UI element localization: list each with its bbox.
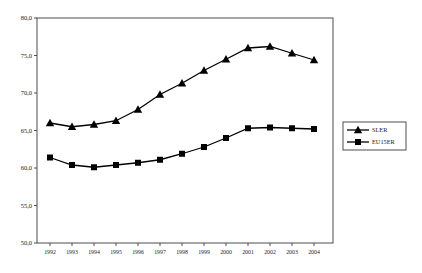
data-point-marker-square xyxy=(179,151,185,157)
data-point-marker-square xyxy=(113,162,119,168)
data-point-marker-square xyxy=(69,162,75,168)
y-axis-tick-label: 65,0 xyxy=(21,127,32,134)
legend: SLEREU15ER xyxy=(343,122,406,150)
data-point-marker-square xyxy=(135,160,141,166)
data-point-marker-square xyxy=(223,135,229,141)
data-point-marker-square xyxy=(201,144,207,150)
x-axis-tick-label: 2001 xyxy=(242,249,254,255)
y-axis-tick-label: 70,0 xyxy=(21,89,32,96)
data-point-marker-square xyxy=(289,125,295,131)
line-chart: 50,055,060,065,070,075,080,0199219931994… xyxy=(0,0,422,273)
x-axis-tick-label: 1993 xyxy=(66,249,78,255)
x-axis-tick-label: 1998 xyxy=(176,249,188,255)
x-axis-tick-label: 2004 xyxy=(308,249,320,255)
y-axis-tick-label: 75,0 xyxy=(21,52,32,59)
x-axis-tick-label: 1992 xyxy=(44,249,56,255)
legend-label: SLER xyxy=(372,126,388,133)
x-axis-tick-label: 2003 xyxy=(286,249,298,255)
data-point-marker-square xyxy=(157,157,163,163)
legend-label: EU15ER xyxy=(372,138,396,145)
y-axis-tick-label: 50,0 xyxy=(21,239,32,246)
y-axis-tick-label: 80,0 xyxy=(21,14,32,21)
y-axis-tick-label: 60,0 xyxy=(21,164,32,171)
x-axis-tick-label: 2000 xyxy=(220,249,232,255)
x-axis-tick-label: 1999 xyxy=(198,249,210,255)
x-axis-tick-label: 1997 xyxy=(154,249,166,255)
figure-canvas: 50,055,060,065,070,075,080,0199219931994… xyxy=(0,0,422,273)
data-point-marker-square xyxy=(47,155,53,161)
data-point-marker-square xyxy=(311,126,317,132)
data-point-marker-square xyxy=(355,139,361,145)
data-point-marker-square xyxy=(245,125,251,131)
x-axis-tick-label: 1994 xyxy=(88,249,100,255)
y-axis-tick-label: 55,0 xyxy=(21,202,32,209)
data-point-marker-square xyxy=(91,164,97,170)
data-point-marker-square xyxy=(267,125,273,131)
x-axis-tick-label: 2002 xyxy=(264,249,276,255)
x-axis-tick-label: 1996 xyxy=(132,249,144,255)
x-axis-tick-label: 1995 xyxy=(110,249,122,255)
